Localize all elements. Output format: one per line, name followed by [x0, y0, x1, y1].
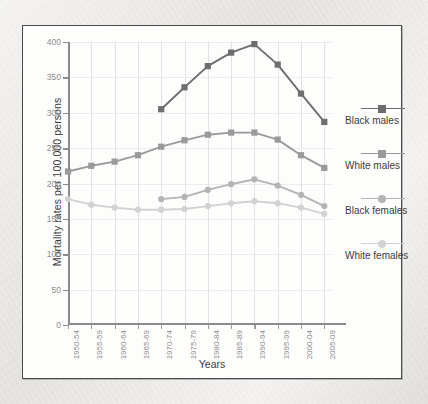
data-point: [321, 203, 327, 209]
x-axis-tick: [254, 325, 255, 329]
legend-item-black-males: Black males: [345, 104, 428, 126]
x-axis-tick-label: 1975-79: [189, 330, 198, 359]
data-point: [181, 194, 187, 200]
data-point: [228, 200, 234, 206]
data-point: [298, 192, 304, 198]
data-point: [135, 152, 141, 158]
x-axis-tick: [324, 325, 325, 329]
x-axis-tick-label: 2000-04: [305, 330, 314, 359]
y-axis-tick-label: 250: [47, 143, 61, 153]
legend-swatch-icon: [361, 149, 405, 158]
x-axis-tick-label: 1960-64: [119, 330, 128, 359]
x-axis-tick-label: 1955-59: [95, 330, 104, 359]
y-axis-tick-label: 350: [47, 72, 61, 82]
data-point: [112, 205, 118, 211]
series-line-white-females: [68, 199, 324, 214]
data-point: [158, 207, 164, 213]
data-point: [205, 203, 211, 209]
legend-label: White females: [345, 250, 428, 261]
data-point: [135, 207, 141, 213]
data-point: [181, 137, 187, 143]
x-axis-tick: [301, 325, 302, 329]
data-point: [275, 137, 281, 143]
x-axis-tick: [231, 325, 232, 329]
x-axis-tick: [161, 325, 162, 329]
series-line-white-males: [68, 133, 324, 172]
x-axis-tick-label: 1965-69: [142, 330, 151, 359]
data-point: [275, 183, 281, 189]
y-axis-tick-label: 300: [47, 108, 61, 118]
y-axis-tick-label: 400: [47, 37, 61, 47]
figure-frame: Mortality rates per 100,000 persons Year…: [22, 25, 402, 379]
data-point: [65, 196, 71, 202]
data-point: [88, 202, 94, 208]
legend-swatch-icon: [361, 194, 405, 203]
data-point: [158, 144, 164, 150]
data-point: [251, 41, 257, 47]
series-lines: [68, 42, 333, 325]
data-point: [181, 206, 187, 212]
data-point: [275, 62, 281, 68]
x-axis-tick: [115, 325, 116, 329]
chart-legend: Black malesWhite malesBlack femalesWhite…: [345, 104, 428, 284]
plot-area: 050100150200250300350400 1950-541955-591…: [68, 42, 333, 325]
x-axis-tick: [278, 325, 279, 329]
data-point: [88, 163, 94, 169]
legend-swatch-icon: [361, 104, 405, 113]
data-point: [251, 176, 257, 182]
legend-label: Black females: [345, 205, 428, 216]
y-axis-tick-label: 0: [56, 320, 61, 330]
data-point: [251, 130, 257, 136]
data-point: [298, 152, 304, 158]
data-point: [205, 132, 211, 138]
x-axis-tick-label: 1990-94: [258, 330, 267, 359]
legend-label: White males: [345, 160, 428, 171]
x-axis-tick-label: 2005-09: [328, 330, 337, 359]
x-axis-tick-label: 1995-99: [282, 330, 291, 359]
data-point: [228, 181, 234, 187]
data-point: [321, 119, 327, 125]
data-point: [298, 205, 304, 211]
series-line-black-males: [161, 44, 324, 122]
line-chart: Mortality rates per 100,000 persons Year…: [23, 26, 401, 378]
data-point: [158, 106, 164, 112]
legend-label: Black males: [345, 115, 428, 126]
data-point: [158, 196, 164, 202]
x-axis-tick: [91, 325, 92, 329]
data-point: [298, 91, 304, 97]
x-axis-tick-label: 1985-89: [235, 330, 244, 359]
y-axis-tick-label: 100: [47, 249, 61, 259]
x-axis-title: Years: [23, 358, 401, 370]
data-point: [228, 130, 234, 136]
data-point: [251, 198, 257, 204]
y-axis-tick-label: 200: [47, 179, 61, 189]
x-axis-tick: [185, 325, 186, 329]
legend-item-black-females: Black females: [345, 194, 428, 216]
data-point: [205, 63, 211, 69]
data-point: [228, 50, 234, 56]
data-point: [205, 187, 211, 193]
data-point: [181, 84, 187, 90]
data-point: [65, 168, 71, 174]
y-axis-tick-label: 50: [52, 285, 61, 295]
x-axis-tick: [68, 325, 69, 329]
x-axis-tick: [208, 325, 209, 329]
x-axis-tick-label: 1970-74: [165, 330, 174, 359]
data-point: [321, 211, 327, 217]
x-axis-tick-label: 1980-84: [212, 330, 221, 359]
x-axis-tick: [138, 325, 139, 329]
y-axis-tick-label: 150: [47, 214, 61, 224]
legend-item-white-females: White females: [345, 239, 428, 261]
data-point: [321, 165, 327, 171]
data-point: [112, 159, 118, 165]
legend-swatch-icon: [361, 239, 405, 248]
data-point: [275, 200, 281, 206]
legend-item-white-males: White males: [345, 149, 428, 171]
x-axis-tick-label: 1950-54: [72, 330, 81, 359]
